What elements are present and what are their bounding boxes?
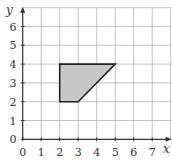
x-tick-label: 1	[38, 146, 45, 159]
y-tick-label: 5	[10, 39, 17, 52]
coordinate-plot: 012345670123456 x y	[0, 0, 172, 160]
x-tick-label: 7	[149, 146, 156, 159]
y-tick-label: 2	[10, 96, 17, 109]
x-tick-label: 6	[130, 146, 137, 159]
y-axis-label: y	[5, 3, 13, 17]
y-tick-label: 6	[10, 21, 17, 34]
x-tick-label: 5	[112, 146, 119, 159]
x-axis-label: x	[163, 142, 170, 156]
y-tick-label: 0	[10, 133, 17, 146]
y-tick-label: 1	[10, 115, 17, 128]
x-tick-label: 3	[75, 146, 82, 159]
y-tick-label: 3	[10, 77, 17, 90]
x-tick-label: 0	[19, 146, 26, 159]
x-tick-label: 4	[93, 146, 100, 159]
x-tick-label: 2	[56, 146, 63, 159]
y-tick-label: 4	[10, 58, 17, 71]
